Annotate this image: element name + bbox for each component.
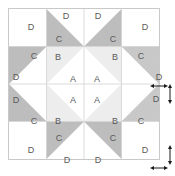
dimension-marker-seam-height-lower (166, 145, 174, 165)
dimension-marker-seam-height-upper (166, 84, 174, 104)
patch-d-bottom-left (9, 122, 47, 160)
dimension-marker-seam-width-lower (150, 164, 168, 172)
quilt-block-canvas (9, 9, 159, 159)
quilt-block-diagram: DDDDCCCBBCDAADDAADCBBCCCDDDD (0, 0, 175, 176)
patch-d-bottom-right (122, 122, 160, 160)
patch-d-top-right (122, 9, 160, 47)
patch-d-top-left (9, 9, 47, 47)
quilt-block-frame: DDDDCCCBBCDAADDAADCBBCCCDDDD (8, 8, 160, 160)
